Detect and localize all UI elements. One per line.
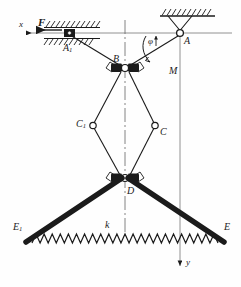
- axis-label-y: y: [186, 258, 190, 267]
- spring-label-k: k: [105, 220, 109, 230]
- joint-label-C: C: [160, 127, 167, 137]
- joint-label-A1: A1: [63, 43, 72, 54]
- joint-label-D: D: [127, 186, 134, 196]
- joint-D: [106, 172, 144, 182]
- joint-C: [152, 122, 158, 128]
- linkage-diagram-svg: [0, 0, 241, 287]
- joint-label-E: E: [224, 222, 230, 232]
- pin-support-A: [160, 9, 215, 36]
- spring-k: [32, 234, 218, 243]
- force-label-F: F: [38, 17, 45, 28]
- joint-label-C1: C1: [76, 119, 86, 130]
- axis-label-x: x: [19, 20, 23, 29]
- scissor-links: [94, 72, 154, 175]
- joint-label-A: A: [184, 36, 190, 46]
- angle-label-phi: φ: [148, 37, 153, 46]
- joint-label-B: B: [113, 54, 119, 64]
- joint-C1: [90, 122, 96, 128]
- joint-label-E1: E1: [13, 222, 22, 233]
- figure-canvas: x F A1 A φ M B C1 C D E1 E k y: [0, 0, 241, 287]
- moment-label-M: M: [169, 66, 177, 76]
- joint-B: [106, 62, 144, 72]
- upper-links: [70, 35, 178, 66]
